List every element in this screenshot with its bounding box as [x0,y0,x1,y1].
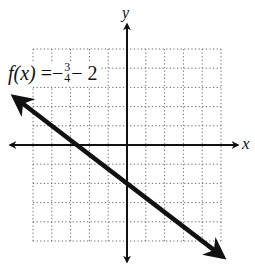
fraction-denominator: 4 [64,73,70,84]
function-label: f(x) =−34− 2 [7,62,99,86]
negative-sign: − [52,62,63,84]
equals-sign: = [41,62,52,84]
x-axis-label: x [242,134,250,154]
function-graph [0,0,255,265]
function-name: f(x) [8,62,36,84]
fraction: 34 [64,62,70,84]
constant-term: − 2 [71,62,97,84]
axes [10,24,238,262]
function-line [14,97,223,257]
y-axis-label: y [122,4,129,22]
